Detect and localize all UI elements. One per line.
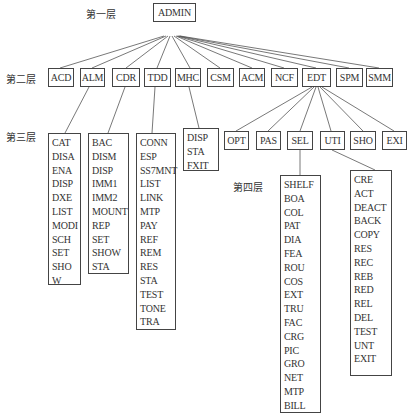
list-item: W [52,274,80,288]
list-item: FAC [284,316,320,330]
list-item: CAT [52,136,80,150]
list-item: LIST [140,177,175,191]
level-1-label: 第一层 [86,6,116,21]
node-cdr: CDR [112,68,140,87]
list-item: RED [354,283,391,297]
list-mhc-commands: DISP STA FXIT [183,128,219,171]
list-item: STA [187,145,218,159]
list-item: BILL [284,399,320,413]
node-acd: ACD [48,68,74,87]
node-sel: SEL [287,131,313,150]
list-item: DISP [52,177,80,191]
list-item: TRU [284,302,320,316]
list-item: REB [354,270,391,284]
node-alm: ALM [80,68,105,87]
list-item: SHO [52,260,80,274]
list-item: FXIT [187,159,218,173]
list-item: STA [92,260,128,274]
list-item: REP [92,219,128,233]
list-item: ACT [354,187,391,201]
node-mhc: MHC [175,68,201,87]
node-uti: UTI [320,131,345,150]
node-tdd: TDD [144,68,171,87]
list-item: ROU [284,261,320,275]
list-item: NET [284,371,320,385]
list-item: EXT [284,288,320,302]
node-admin: ADMIN [153,3,196,22]
list-item: MODI [52,219,80,233]
list-item: SET [92,233,128,247]
list-item: SS7MNT [140,164,175,178]
list-item: COPY [354,228,391,242]
node-spm: SPM [336,68,363,87]
node-opt: OPT [224,131,249,150]
list-item: SHOW [92,246,128,260]
list-item: COS [284,275,320,289]
list-item: REC [354,256,391,270]
list-item: UNT [354,339,391,353]
node-acm: ACM [239,68,265,87]
list-item: TRA [140,315,175,329]
list-item: REM [140,246,175,260]
list-item: DISP [187,131,218,145]
list-item: DISP [92,164,128,178]
list-item: DISM [92,150,128,164]
list-item: ESP [140,150,175,164]
node-ncf: NCF [271,68,298,87]
node-sho: SHO [350,131,376,150]
level-4-label: 第四层 [233,179,263,194]
list-item: IMM2 [92,191,128,205]
list-item: MTP [284,385,320,399]
list-item: LINK [140,191,175,205]
list-item: PAY [140,219,175,233]
list-item: CRG [284,330,320,344]
level-2-label: 第二层 [6,71,36,86]
list-item: CRE [354,173,391,187]
list-item: DXE [52,191,80,205]
node-exi: EXI [382,131,407,150]
node-smm: SMM [366,68,393,87]
list-item: ENA [52,164,80,178]
list-item: DISA [52,150,80,164]
list-item: COL [284,206,320,220]
list-item: REL [354,297,391,311]
level-3-label: 第三层 [6,129,36,144]
list-item: RES [140,260,175,274]
list-item: DIA [284,233,320,247]
list-item: MOUNT [92,205,128,219]
list-item: LIST [52,205,80,219]
list-item: TEST [354,325,391,339]
list-item: SHELF [284,178,320,192]
list-item: TEST [140,288,175,302]
list-item: FEA [284,247,320,261]
list-item: IMM1 [92,177,128,191]
list-sel-commands: SHELF BOA COL PAT DIA FEA ROU COS EXT TR… [280,175,321,413]
node-edt: EDT [302,68,331,87]
list-item: CONN [140,136,175,150]
list-item: STA [140,274,175,288]
list-item: BAC [92,136,128,150]
list-item: PAT [284,219,320,233]
list-item: RES [354,242,391,256]
list-item: BACK [354,214,391,228]
list-item: PIC [284,344,320,358]
node-csm: CSM [207,68,234,87]
list-uti-commands: CRE ACT DEACT BACK COPY RES REC REB RED … [350,170,392,376]
list-item: TONE [140,302,175,316]
list-item: REF [140,233,175,247]
list-tdd-commands: CONN ESP SS7MNT LIST LINK MTP PAY REF RE… [136,133,176,330]
list-item: SCH [52,233,80,247]
list-item: EXIT [354,352,391,366]
list-item: DEL [354,311,391,325]
list-alm-commands: CAT DISA ENA DISP DXE LIST MODI SCH SET … [48,133,81,285]
list-item: BOA [284,192,320,206]
list-item: GRO [284,357,320,371]
node-pas: PAS [256,131,281,150]
list-item: DEACT [354,201,391,215]
list-cdr-commands: BAC DISM DISP IMM1 IMM2 MOUNT REP SET SH… [88,133,129,274]
list-item: SET [52,246,80,260]
list-item: MTP [140,205,175,219]
